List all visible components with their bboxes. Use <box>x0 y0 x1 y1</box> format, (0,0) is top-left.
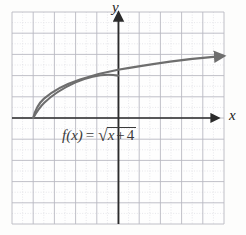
radicand-constant: 4 <box>127 127 135 143</box>
radical-expression: √ x+4 <box>98 128 136 145</box>
graph-figure: y x f(x) = √ x+4 <box>0 0 246 235</box>
function-name-text: f(x) <box>62 128 83 143</box>
y-axis-label: y <box>112 0 119 15</box>
x-axis-label: x <box>229 108 236 123</box>
coordinate-plane <box>0 0 246 235</box>
radicand-operator: + <box>114 127 126 143</box>
radicand: x+4 <box>107 127 137 144</box>
equation-label: f(x) = √ x+4 <box>62 128 136 145</box>
equals-sign: = <box>86 128 94 143</box>
